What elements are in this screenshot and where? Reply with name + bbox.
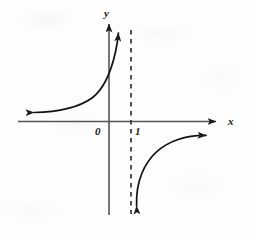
curve-right-branch (137, 135, 206, 206)
y-axis-label: y (104, 8, 109, 19)
figure-canvas: y x 0 1 (0, 0, 257, 238)
x-axis-label: x (228, 116, 234, 127)
x-tick-label-1: 1 (135, 126, 141, 137)
origin-label: 0 (95, 126, 101, 137)
curve-left-branch (34, 33, 118, 113)
function-graph (0, 0, 257, 238)
